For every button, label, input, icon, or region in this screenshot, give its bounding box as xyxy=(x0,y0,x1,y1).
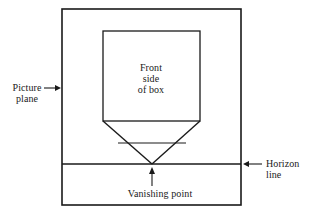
front-side-label-line1: Front xyxy=(138,62,164,73)
vanishing-point-label-text: Vanishing point xyxy=(128,188,193,199)
horizon-line-label-line1: Horizon xyxy=(266,158,299,169)
figure-canvas: Picture plane Front side of box Horizon … xyxy=(0,0,313,220)
horizon-line-arrow-icon xyxy=(243,161,262,167)
perspective-diagram xyxy=(0,0,313,220)
vanishing-point-arrow-icon xyxy=(149,167,155,186)
horizon-line-label: Horizon line xyxy=(266,158,299,180)
front-side-label-line2: side xyxy=(138,73,164,84)
picture-plane-label: Picture plane xyxy=(10,82,44,104)
front-side-label-line3: of box xyxy=(138,84,164,95)
picture-plane-label-line1: Picture xyxy=(10,82,44,93)
picture-plane-label-line2: plane xyxy=(10,93,44,104)
picture-plane-arrow-icon xyxy=(44,85,61,91)
vanishing-point-label: Vanishing point xyxy=(128,188,193,199)
front-side-of-box-label: Front side of box xyxy=(138,62,164,95)
horizon-line-label-line2: line xyxy=(266,169,299,180)
